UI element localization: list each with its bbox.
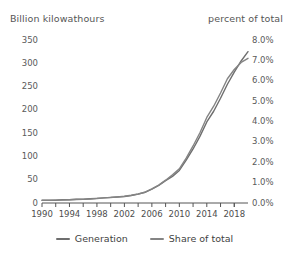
data-lines-group bbox=[42, 52, 248, 201]
x-axis-line-group bbox=[42, 203, 248, 207]
chart-figure: Billion kilowathours percent of total 05… bbox=[0, 0, 289, 261]
legend-line-swatch bbox=[150, 238, 164, 240]
legend-label: Generation bbox=[75, 233, 128, 244]
legend-label: Share of total bbox=[169, 233, 233, 244]
legend-item[interactable]: Generation bbox=[56, 233, 128, 244]
legend-line-swatch bbox=[56, 238, 70, 240]
legend-item[interactable]: Share of total bbox=[150, 233, 233, 244]
plot-area bbox=[0, 0, 289, 261]
chart-legend: GenerationShare of total bbox=[0, 233, 289, 244]
data-line-generation bbox=[42, 52, 248, 201]
data-line-share-of-total bbox=[42, 58, 248, 200]
